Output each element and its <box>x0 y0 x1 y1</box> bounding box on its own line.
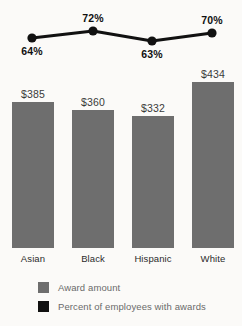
category-label-black: Black <box>66 253 120 264</box>
combo-bar-line-chart: $385 $360 $332 $434 Asian Black Hispanic… <box>0 0 242 326</box>
category-label-hispanic: Hispanic <box>126 253 180 264</box>
bar-value-hispanic: $332 <box>132 102 174 114</box>
percent-label-white: 70% <box>188 14 236 26</box>
plot-area: $385 $360 $332 $434 Asian Black Hispanic… <box>0 0 242 268</box>
gray-square-swatch <box>38 282 49 293</box>
black-square-swatch <box>38 301 49 312</box>
bar-black <box>72 110 114 248</box>
category-label-white: White <box>186 253 240 264</box>
percent-line-path <box>32 31 212 41</box>
percent-label-hispanic: 63% <box>128 48 176 60</box>
bar-value-asian: $385 <box>12 88 54 100</box>
legend-label-percent-employees: Percent of employees with awards <box>58 301 206 312</box>
legend-item-percent-employees: Percent of employees with awards <box>38 300 206 312</box>
percent-label-black: 72% <box>69 12 117 24</box>
percent-marker-asian <box>27 33 36 42</box>
legend-label-award-amount: Award amount <box>58 282 120 293</box>
bar-white <box>192 82 234 248</box>
bar-value-white: $434 <box>192 68 234 80</box>
bar-asian <box>12 102 54 248</box>
bar-hispanic <box>132 116 174 248</box>
percent-marker-hispanic <box>147 36 156 45</box>
legend-item-award-amount: Award amount <box>38 281 120 293</box>
category-label-asian: Asian <box>6 253 60 264</box>
bar-value-black: $360 <box>72 96 114 108</box>
percent-marker-black <box>88 26 97 35</box>
percent-label-asian: 64% <box>8 45 56 57</box>
percent-marker-white <box>207 28 216 37</box>
